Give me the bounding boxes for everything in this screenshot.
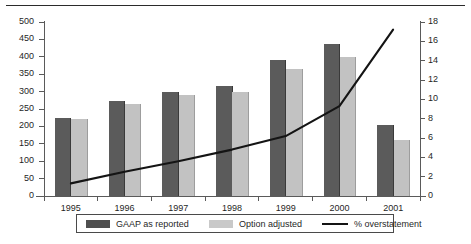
right-axis-tick-label: 10 [428,94,438,103]
right-axis-tick-label: 12 [428,75,438,84]
left-axis-tick-label: 450 [19,34,34,43]
chart-figure: 050100150200250300350400450500 024681012… [0,0,471,244]
chart-bar [162,92,179,196]
legend-item: GAAP as reported [86,219,189,229]
right-axis-tick [420,176,425,177]
chart-bar [109,101,126,196]
left-axis-tick [39,143,44,144]
right-axis-tick [420,99,425,100]
left-axis-tick [39,56,44,57]
right-axis-tick-label: 6 [428,133,433,142]
left-axis-tick [39,126,44,127]
chart-bar [324,44,341,196]
left-axis-tick-label: 150 [19,139,34,148]
right-axis-tick [420,138,425,139]
left-axis-tick [39,39,44,40]
chart-bar [55,118,72,196]
chart-bar [216,86,233,196]
chart-bar [377,125,394,196]
left-axis-tick [39,161,44,162]
left-axis-tick-label: 500 [19,17,34,26]
right-axis-tick-label: 14 [428,56,438,65]
x-axis-tick [205,196,206,201]
x-axis-category-label: 1997 [152,203,204,213]
left-axis-tick-label: 0 [29,191,34,200]
legend-item: Option adjusted [209,219,302,229]
chart-bar [232,92,249,196]
chart-bar [270,60,287,196]
plot-area [44,22,420,196]
legend-item-label: GAAP as reported [116,219,189,229]
x-axis-category-label: 2000 [313,203,365,213]
left-axis-tick [39,74,44,75]
left-axis-tick-label: 50 [24,174,34,183]
right-axis-tick-label: 8 [428,114,433,123]
left-axis-tick-label: 250 [19,104,34,113]
right-axis-tick [420,41,425,42]
left-axis-tick [39,178,44,179]
legend-item-label: Option adjusted [239,219,302,229]
chart-legend: GAAP as reportedOption adjusted% oversta… [76,214,394,233]
bar-light-swatch-icon [209,220,233,228]
x-axis-tick [97,196,98,201]
right-axis-tick [420,157,425,158]
x-axis-category-label: 1999 [260,203,312,213]
x-axis-tick [420,196,421,201]
x-axis-tick [312,196,313,201]
left-axis-tick-label: 400 [19,52,34,61]
x-axis-category-label: 2001 [367,203,419,213]
chart-bar [394,140,411,196]
left-axis-tick [39,91,44,92]
x-axis-category-label: 1996 [99,203,151,213]
legend-item: % overstatement [322,219,422,229]
right-axis-tick [420,196,425,197]
x-axis-category-label: 1998 [206,203,258,213]
chart-bar [286,69,303,196]
right-axis-tick [420,60,425,61]
left-axis-tick-label: 300 [19,87,34,96]
x-axis-tick [151,196,152,201]
right-axis-tick [420,22,425,23]
chart-bar [71,119,88,196]
x-axis-tick [44,196,45,201]
right-axis-tick-label: 18 [428,17,438,26]
right-axis-tick [420,80,425,81]
x-axis-category-label: 1995 [45,203,97,213]
right-axis-tick-label: 16 [428,36,438,45]
chart-bar [340,57,357,196]
right-axis-tick-label: 4 [428,152,433,161]
chart-bar [179,95,196,196]
x-axis-tick [258,196,259,201]
right-axis-tick-label: 2 [428,172,433,181]
page-rule [6,5,465,6]
right-axis-tick [420,118,425,119]
left-axis-tick [39,109,44,110]
legend-item-label: % overstatement [354,219,422,229]
line-swatch-icon [322,223,348,225]
bar-dark-swatch-icon [86,220,110,228]
left-axis-tick-label: 200 [19,121,34,130]
right-axis-tick-label: 0 [428,191,433,200]
left-axis-tick-label: 350 [19,69,34,78]
left-axis-tick [39,22,44,23]
x-axis-tick [366,196,367,201]
left-axis-tick-label: 100 [19,156,34,165]
chart-bar [125,104,142,196]
